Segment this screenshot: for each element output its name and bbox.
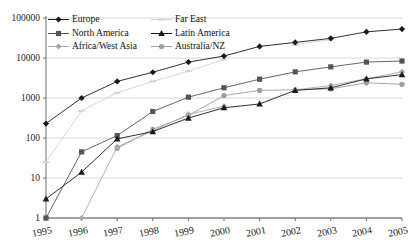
data-point [79,149,84,154]
data-point [79,215,85,221]
data-point [328,64,333,69]
data-point [186,95,191,100]
data-point [399,58,404,63]
y-tick-label: 100000 [0,13,40,23]
data-point [150,69,156,75]
data-point [257,88,262,93]
data-point [114,92,120,94]
data-point [185,70,191,72]
y-tick-label: 10000 [0,53,40,63]
data-point [43,215,48,220]
data-point [399,82,404,87]
y-tick-label: 1 [0,213,40,223]
data-point [293,69,298,74]
data-point [43,161,49,163]
data-point [363,29,369,35]
data-point [43,196,50,202]
data-point [328,35,334,41]
y-tick-label: 100 [0,133,40,143]
data-point [257,77,262,82]
series-africa-west-asia [79,69,406,221]
line-chart: 110100100010000100000 199519961997199819… [0,0,413,251]
series-australia-nz [115,80,405,151]
y-tick-label: 10 [0,173,40,183]
legend-marker-icon [47,13,70,26]
legend-label: North America [72,27,129,40]
legend-marker-icon [150,40,173,53]
data-point [221,85,226,90]
chart-legend: EuropeNorth AmericaAfrica/West AsiaFar E… [47,13,232,55]
legend-label: Far East [175,13,206,26]
data-point [114,78,120,84]
data-point [221,93,226,98]
data-point [79,95,85,101]
legend-label: Africa/West Asia [72,40,137,53]
legend-label: Australia/NZ [175,40,225,53]
y-tick-label: 1000 [0,93,40,103]
legend-marker-icon [47,40,70,53]
data-point [150,81,156,83]
legend-marker-icon [47,27,70,40]
legend-label: Europe [72,13,99,26]
data-point [257,43,263,49]
legend-label: Latin America [175,27,230,40]
series-far-east [43,39,334,163]
series-line [82,72,402,218]
data-point [364,59,369,64]
legend-marker-icon [150,27,173,40]
series-line [46,61,402,218]
data-point [150,109,155,114]
data-point [399,26,405,32]
data-point [78,110,84,112]
data-point [43,120,49,126]
legend-marker-icon [150,13,173,26]
data-point [185,59,191,65]
